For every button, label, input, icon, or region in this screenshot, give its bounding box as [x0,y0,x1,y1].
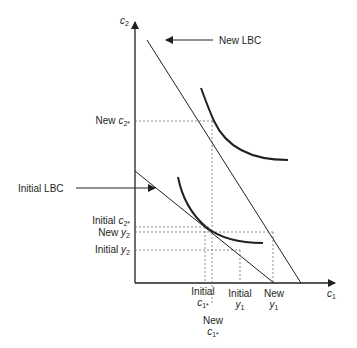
diagram-canvas [0,0,357,348]
label-new-c2-star: New c2* [96,115,130,129]
new-lbc-line [147,40,301,283]
dashed-guides [135,121,273,305]
new-lbc-label: New LBC [219,35,261,46]
label-initial-c1-star: Initialc1* [183,286,223,311]
label-initial-y2: Initial y2 [95,244,130,258]
y-axis-label: c2 [120,15,129,29]
label-new-y1: Newy1 [254,288,294,313]
lower-indifference-curve [178,177,263,243]
x-axis-label: c1 [327,288,336,302]
upper-indifference-curve [201,88,288,160]
label-new-y2: New y2 [98,227,130,241]
initial-lbc-label: Initial LBC [18,183,64,194]
label-new-c1-star: Newc1* [193,315,233,340]
